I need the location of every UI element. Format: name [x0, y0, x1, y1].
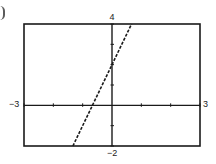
data-series [73, 24, 132, 146]
line-series [73, 24, 132, 146]
graph-plot [0, 0, 216, 164]
x-max-label: 3 [203, 100, 208, 109]
y-max-label: 4 [110, 13, 115, 22]
y-min-label: −2 [107, 149, 117, 158]
x-min-label: −3 [9, 100, 19, 109]
